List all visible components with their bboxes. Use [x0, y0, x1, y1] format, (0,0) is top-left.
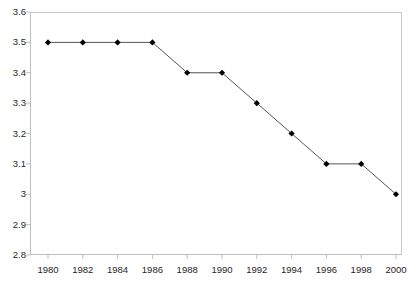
x-axis-labels: 1980198219841986198819901992199419961998… [0, 0, 419, 282]
line-chart: 3.63.53.43.33.23.132.92.8 19801982198419… [0, 0, 419, 282]
x-tick-label: 2000 [376, 265, 416, 275]
